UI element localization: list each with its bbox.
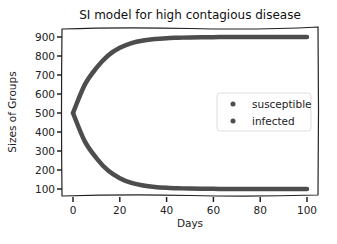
legend-label-infected: infected xyxy=(252,115,295,127)
legend-label-susceptible: susceptible xyxy=(252,98,312,110)
y-tick-label: 100 xyxy=(35,183,55,195)
y-tick-label: 800 xyxy=(35,50,55,62)
x-axis: 020406080100 xyxy=(70,197,317,216)
x-tick-label: 80 xyxy=(254,204,267,216)
y-axis-title: Sizes of Groups xyxy=(6,71,18,152)
chart: SI model for high contagious disease 100… xyxy=(0,0,337,244)
legend-marker-infected-icon xyxy=(231,119,236,124)
chart-title: SI model for high contagious disease xyxy=(79,8,301,22)
x-axis-title: Days xyxy=(177,217,203,229)
y-tick-label: 700 xyxy=(35,69,55,81)
legend: susceptible infected xyxy=(217,93,312,131)
y-tick-label: 200 xyxy=(35,164,55,176)
x-tick-label: 0 xyxy=(70,204,77,216)
x-tick-label: 40 xyxy=(160,204,173,216)
y-axis: 100200300400500600700800900 xyxy=(35,31,62,195)
legend-marker-susceptible-icon xyxy=(231,102,236,107)
y-tick-label: 300 xyxy=(35,145,55,157)
y-tick-label: 600 xyxy=(35,88,55,100)
y-tick-label: 400 xyxy=(35,126,55,138)
x-tick-label: 20 xyxy=(113,204,126,216)
y-tick-label: 900 xyxy=(35,31,55,43)
y-tick-label: 500 xyxy=(35,107,55,119)
x-tick-label: 100 xyxy=(297,204,317,216)
x-tick-label: 60 xyxy=(207,204,220,216)
